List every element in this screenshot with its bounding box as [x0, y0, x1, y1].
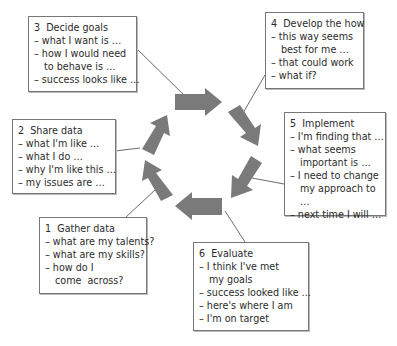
stage-box-3: 3 Decide goals what I want is … how I wo…: [28, 16, 137, 92]
arrow-3-to-4: [175, 88, 222, 116]
stage-title: 1 Gather data: [45, 222, 140, 235]
leader-line-1: [126, 190, 155, 217]
stage-item: what I want is …: [34, 34, 130, 47]
leader-line-3: [136, 48, 186, 97]
arrow-5-to-6: [231, 156, 262, 198]
stage-box-6: 6 Evaluate I think I've met my goals suc…: [193, 242, 309, 331]
stage-item: what I'm like …: [18, 137, 109, 150]
stage-item: what if?: [271, 69, 357, 82]
stage-title: 2 Share data: [18, 124, 109, 137]
stage-title: 3 Decide goals: [34, 21, 130, 34]
stage-item: what I do …: [18, 150, 109, 163]
stage-title: 5 Implement: [290, 117, 379, 130]
stage-item: I need to change my approach to …: [290, 169, 386, 208]
stage-box-1: 1 Gather data what are my talents? what …: [39, 217, 147, 294]
stage-item: how do I come across?: [45, 261, 127, 287]
stage-item: I think I've met my goals: [199, 260, 297, 286]
stage-title: 6 Evaluate: [199, 247, 302, 260]
leader-line-5: [252, 178, 284, 184]
stage-item: here's where I am: [199, 299, 302, 312]
stage-item: I'm finding that …: [290, 130, 379, 143]
stage-box-5: 5 Implement I'm finding that … what seem…: [284, 112, 386, 216]
arrow-1-to-2: [142, 160, 173, 201]
stage-item: what are my skills?: [45, 248, 140, 261]
leader-line-2: [115, 148, 140, 151]
leader-line-4: [243, 75, 265, 113]
stage-item: next time I will …: [290, 208, 379, 221]
stage-box-4: 4 Develop the how this way seems best fo…: [265, 12, 364, 89]
stage-title: 4 Develop the how: [271, 17, 357, 30]
leader-line-6: [225, 211, 245, 242]
stage-item: success looks like …: [34, 73, 130, 86]
stage-item: how I would need to behave is …: [34, 47, 130, 73]
stage-item: this way seems best for me …: [271, 30, 353, 56]
stage-item: why I'm like this …: [18, 163, 109, 176]
stage-item: what seems important is …: [290, 143, 372, 169]
arrow-6-to-1: [175, 192, 222, 220]
stage-box-2: 2 Share data what I'm like … what I do ……: [12, 119, 116, 194]
stage-item: I'm on target: [199, 312, 302, 325]
stage-item: my issues are …: [18, 176, 109, 189]
stage-item: success looked like …: [199, 286, 302, 299]
arrow-2-to-3: [142, 115, 170, 155]
stage-item: what are my talents?: [45, 235, 140, 248]
stage-item: that could work: [271, 56, 357, 69]
